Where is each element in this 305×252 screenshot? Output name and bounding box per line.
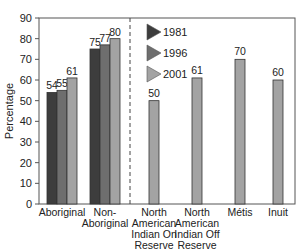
bar-2001 <box>273 80 283 204</box>
y-tick-label: 60 <box>20 74 32 86</box>
y-tick-label: 90 <box>20 12 32 24</box>
y-tick-label: 30 <box>20 136 32 148</box>
bar-value-label: 50 <box>148 87 160 99</box>
bar-chart: 0102030405060708090Percentage54556175778… <box>0 0 305 252</box>
x-tick-label: Métis <box>227 206 252 218</box>
x-tick-label: Reserve <box>134 239 173 251</box>
x-tick-label: Inuit <box>268 206 288 218</box>
bar-value-label: 80 <box>109 26 121 38</box>
bar-2001 <box>110 39 120 204</box>
x-tick-label: Aboriginal <box>82 217 129 229</box>
bar-2001 <box>235 59 245 204</box>
y-tick-label: 20 <box>20 157 32 169</box>
legend-label: 2001 <box>163 68 187 80</box>
bar-1996 <box>57 90 67 204</box>
y-tick-label: 40 <box>20 115 32 127</box>
y-tick-label: 80 <box>20 33 32 45</box>
y-tick-label: 50 <box>20 95 32 107</box>
bar-1981 <box>90 49 100 204</box>
y-tick-label: 10 <box>20 177 32 189</box>
y-tick-label: 0 <box>26 198 32 210</box>
bar-value-label: 60 <box>272 66 284 78</box>
bar-2001 <box>192 78 202 204</box>
bar-value-label: 55 <box>56 77 68 89</box>
legend-label: 1996 <box>163 47 187 59</box>
bar-1981 <box>47 92 57 204</box>
x-tick-label: Aboriginal <box>39 206 86 218</box>
bar-1996 <box>100 45 110 204</box>
legend-label: 1981 <box>163 26 187 38</box>
bar-2001 <box>67 78 77 204</box>
plot-frame <box>39 18 295 204</box>
y-axis-label: Percentage <box>3 83 15 139</box>
x-tick-label: Reserve <box>177 239 216 251</box>
y-tick-label: 70 <box>20 53 32 65</box>
bar-value-label: 61 <box>66 65 78 77</box>
bar-2001 <box>149 101 159 204</box>
bar-value-label: 70 <box>234 45 246 57</box>
bar-value-label: 61 <box>191 64 203 76</box>
